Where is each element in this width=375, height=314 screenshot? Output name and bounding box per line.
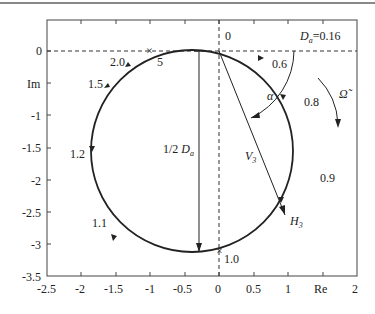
curve-labels: 0 0.6 0.8 0.9 1.0 1.1 1.2 1.5 2.0 5 [70,29,335,266]
svg-text:0: 0 [215,282,221,296]
svg-text:-3.5: -3.5 [22,270,41,284]
v3-label: V3 [245,149,256,165]
da-label: Da=0.16 [299,29,340,45]
svg-text:-1.5: -1.5 [104,282,123,296]
svg-text:-2.5: -2.5 [37,282,56,296]
svg-text:-2: -2 [31,174,41,188]
y-ticks [47,51,51,244]
svg-text:Im: Im [27,77,41,91]
svg-text:Re: Re [314,282,327,296]
svg-text:1: 1 [285,282,291,296]
svg-text:1.0: 1.0 [224,252,239,266]
svg-text:2: 2 [352,282,358,296]
half-da-label: 1/2 Da [163,142,194,158]
omega-arrow [318,78,338,124]
svg-text:0.6: 0.6 [272,57,287,71]
y-tick-labels: 0Im -1-1.5 -2-2.5 -3-3.5 [22,44,42,284]
svg-text:-2: -2 [75,282,85,296]
svg-text:0: 0 [36,44,42,58]
svg-text:1.1: 1.1 [92,216,107,230]
svg-text:-1.5: -1.5 [22,141,41,155]
svg-text:0.5: 0.5 [246,282,261,296]
svg-text:×: × [216,244,223,258]
svg-text:-2.5: -2.5 [22,206,41,220]
svg-text:0: 0 [225,29,231,43]
svg-text:-1: -1 [145,282,155,296]
x-tick-labels: -2.5-2 -1.5-1 -0.50 0.51 Re2 [37,282,358,296]
v3-vector [219,51,285,215]
nyquist-chart: × × -2.5-2 -1.5-1 -0.50 0.51 Re2 0Im -1-… [0,0,375,314]
svg-text:1.5: 1.5 [88,77,103,91]
omega-label: Ω̃ [339,87,353,101]
svg-text:-3: -3 [31,238,41,252]
svg-text:0.8: 0.8 [304,95,319,109]
svg-text:1.2: 1.2 [70,147,85,161]
svg-text:0.9: 0.9 [320,171,335,185]
svg-text:2.0: 2.0 [110,55,125,69]
svg-text:-1: -1 [31,109,41,123]
h3-label: H3 [289,214,303,230]
cross-mark: × [146,44,153,58]
alpha-label: α [267,89,274,103]
svg-text:-0.5: -0.5 [173,282,192,296]
svg-text:5: 5 [157,55,163,69]
